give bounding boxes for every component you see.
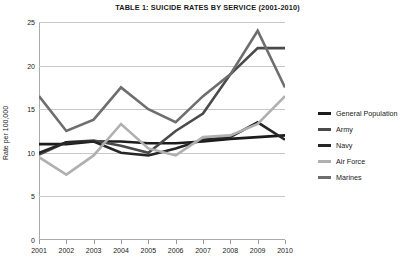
x-axis-tick-label: 2004: [113, 247, 129, 254]
x-axis-tickmark: [176, 240, 177, 244]
x-axis-tick-label: 2008: [223, 247, 239, 254]
y-axis-tick-label: 15: [27, 106, 35, 113]
x-axis-tick-label: 2003: [86, 247, 102, 254]
legend-swatch-icon: [318, 112, 331, 115]
x-axis-tickmark: [285, 240, 286, 244]
x-axis-tick-label: 2002: [59, 247, 75, 254]
y-axis-tick-label: 5: [31, 193, 35, 200]
y-axis-tick-label: 0: [31, 237, 35, 244]
y-axis-tick-label: 25: [27, 19, 35, 26]
legend-label: Air Force: [336, 157, 365, 166]
x-axis-tickmark: [39, 240, 40, 244]
x-axis-tickmark: [66, 240, 67, 244]
y-axis-label: Rate per 100,000: [2, 106, 9, 160]
legend-item[interactable]: Navy: [318, 137, 413, 153]
y-axis-tick-label: 20: [27, 62, 35, 69]
legend-swatch-icon: [318, 176, 331, 179]
legend-swatch-icon: [318, 160, 331, 163]
chart-page: TABLE 1: SUICIDE RATES BY SERVICE (2001-…: [0, 0, 415, 266]
x-axis-tickmark: [148, 240, 149, 244]
x-axis-tickmark: [94, 240, 95, 244]
legend-label: Navy: [336, 141, 352, 150]
x-axis-tick-label: 2005: [141, 247, 157, 254]
legend-item[interactable]: General Population: [318, 105, 413, 121]
x-axis-tickmark: [203, 240, 204, 244]
legend-swatch-icon: [318, 144, 331, 147]
x-axis-tick-label: 2010: [277, 247, 293, 254]
x-axis-tick-label: 2006: [168, 247, 184, 254]
legend-label: General Population: [336, 109, 398, 118]
chart-legend: General PopulationArmyNavyAir ForceMarin…: [318, 105, 413, 185]
plot-area: 0510152025 20012002200320042005200620072…: [39, 22, 285, 240]
x-axis-tick-label: 2007: [195, 247, 211, 254]
x-axis-tick-label: 2001: [31, 247, 47, 254]
y-axis-tick-label: 10: [27, 149, 35, 156]
x-axis-tickmark: [230, 240, 231, 244]
legend-swatch-icon: [318, 128, 331, 131]
x-axis-tick-label: 2009: [250, 247, 266, 254]
legend-label: Army: [336, 125, 353, 134]
x-axis-tickmark: [258, 240, 259, 244]
series-lines: [39, 22, 285, 240]
legend-item[interactable]: Air Force: [318, 153, 413, 169]
chart-title: TABLE 1: SUICIDE RATES BY SERVICE (2001-…: [0, 3, 415, 12]
legend-item[interactable]: Marines: [318, 169, 413, 185]
legend-label: Marines: [336, 173, 362, 182]
x-axis-tickmark: [121, 240, 122, 244]
legend-item[interactable]: Army: [318, 121, 413, 137]
series-line: [39, 31, 285, 131]
series-line: [39, 96, 285, 174]
